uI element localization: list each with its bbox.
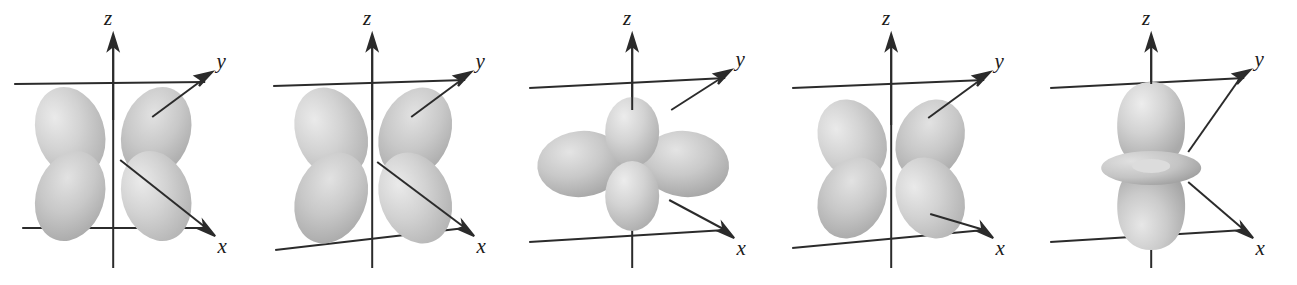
y-axis-line (14, 82, 205, 84)
y-axis-label: y (993, 49, 1005, 73)
y-axis-label: y (215, 49, 227, 73)
x-axis-label: x (476, 234, 487, 258)
y-axis-line (274, 80, 466, 86)
oblique-axes (16, 65, 196, 84)
y-axis-line (529, 78, 725, 88)
lobe-lower-left (282, 141, 382, 254)
x-arrowhead (459, 221, 475, 236)
z-axis-label: z (103, 6, 112, 30)
z-axis-label: z (362, 6, 371, 30)
orbital-figure-row: z y x (0, 0, 1297, 285)
z-axis-label: z (881, 6, 890, 30)
y-arrowhead (1233, 70, 1250, 84)
y-axis-label: y (733, 47, 745, 71)
lobe-lower-right (883, 146, 978, 250)
x-arrowhead (977, 223, 993, 238)
orbital-panel-3: z y x (519, 0, 778, 285)
orbital-panel-4: z y x (778, 0, 1037, 285)
x-axis-label: x (1254, 236, 1265, 260)
x-axis-line (529, 230, 725, 242)
lobe-lower-right (110, 142, 203, 251)
lobe-group (1101, 82, 1201, 250)
x-axis-lower (1188, 182, 1244, 230)
y-axis-label: y (474, 49, 486, 73)
x-axis-label: x (735, 236, 746, 260)
x-arrowhead (718, 223, 734, 238)
lobe-lower-left (805, 146, 900, 250)
lobe-group (534, 97, 732, 231)
orbital-panel-1: z y x (0, 0, 259, 285)
z-axis-label: z (1141, 6, 1150, 30)
x-axis-label: x (217, 234, 228, 258)
torus-inner-hole (1132, 159, 1170, 173)
y-axis-upper (671, 78, 721, 110)
y-axis-line (792, 80, 984, 88)
orbital-panel-5: z y x (1038, 0, 1297, 285)
z-axis-label: z (622, 6, 631, 30)
x-axis-line (792, 230, 984, 248)
orbital-panel-2: z y x (259, 0, 518, 285)
y-axis-upper (1188, 78, 1240, 152)
y-axis-label: y (1252, 47, 1264, 71)
x-axis-lower (669, 200, 725, 230)
x-axis-label: x (995, 236, 1006, 260)
lobe-lower-left (24, 142, 117, 251)
lobe-bottom (605, 161, 659, 231)
